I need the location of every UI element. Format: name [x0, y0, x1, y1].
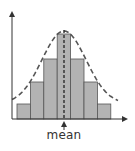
histogram-bar: [17, 104, 30, 119]
histogram-bar: [97, 104, 110, 119]
histogram-bar: [30, 82, 43, 119]
histogram-bar: [71, 59, 84, 119]
histogram-bar: [44, 59, 57, 119]
histogram-bar: [84, 82, 97, 119]
mean-label: mean: [0, 128, 128, 142]
